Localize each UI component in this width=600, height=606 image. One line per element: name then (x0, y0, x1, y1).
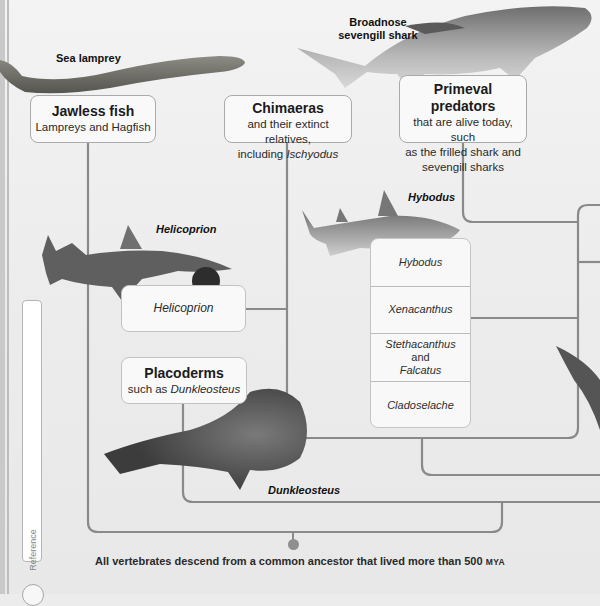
chimaeras-sub-line1: and their extinct relatives, (225, 117, 351, 147)
label-hybodus: Hybodus (408, 191, 455, 204)
primeval-sub-line2: as the frilled shark and (400, 145, 526, 160)
common-ancestor-node (288, 539, 299, 550)
label-broadnose-line2: sevengill shark (330, 29, 426, 42)
placoderms-title: Placoderms (122, 365, 246, 382)
placoderms-sub-italic: Dunkleosteus (171, 383, 241, 395)
footer-caption: All vertebrates descend from a common an… (90, 555, 510, 567)
shark-fin-partial-image (556, 340, 600, 430)
placoderms-subtitle: such as Dunkleosteus (122, 382, 246, 397)
box-jawless-fish: Jawless fish Lampreys and Hagfish (30, 95, 156, 143)
box-helicoprion: Helicoprion (121, 285, 246, 332)
list-item-label: Xenacanthus (388, 303, 452, 316)
label-sea-lamprey: Sea lamprey (56, 52, 121, 65)
primeval-sub-line3: sevengill sharks (400, 160, 526, 175)
box-placoderms: Placoderms such as Dunkleosteus (121, 357, 247, 404)
reference-tab-text: Reference (28, 529, 38, 571)
box-chimaeras: Chimaeras and their extinct relatives, i… (224, 95, 352, 143)
list-item-label-normal: and (411, 351, 429, 363)
label-broadnose-line1: Broadnose (330, 16, 426, 29)
box-primeval-predators: Primeval predators that are alive today,… (399, 75, 527, 143)
list-item-hybodus: Hybodus (371, 239, 470, 287)
jawless-subtitle: Lampreys and Hagfish (31, 120, 155, 135)
reference-tab-circle (22, 584, 44, 606)
list-item-cladoselache: Cladoselache (371, 382, 470, 429)
primeval-sub-line1: that are alive today, such (400, 115, 526, 145)
list-item-stethacanthus-falcatus: Stethacanthus and Falcatus (371, 334, 470, 382)
reference-tab-label: Reference (18, 520, 48, 580)
footer-unit: MYA (486, 557, 505, 567)
list-item-label-italic: Stethacanthus (385, 338, 455, 350)
primeval-title: Primeval predators (400, 81, 526, 115)
chimaeras-sub-line2: including Ischyodus (225, 147, 351, 162)
label-broadnose-sevengill: Broadnose sevengill shark (330, 16, 426, 42)
list-item-xenacanthus: Xenacanthus (371, 287, 470, 335)
list-item-label-line2: Falcatus (400, 364, 442, 376)
label-helicoprion: Helicoprion (156, 223, 217, 236)
jawless-title: Jawless fish (31, 103, 155, 120)
chimaeras-sub-italic: Ischyodus (286, 148, 338, 160)
shark-genera-list: Hybodus Xenacanthus Stethacanthus and Fa… (370, 238, 471, 428)
list-item-label: Cladoselache (387, 399, 454, 412)
chimaeras-sub-prefix: including (238, 148, 287, 160)
label-dunkleosteus: Dunkleosteus (268, 484, 340, 497)
chimaeras-title: Chimaeras (225, 100, 351, 117)
footer-text: All vertebrates descend from a common an… (95, 555, 486, 567)
cladoselache-branch (422, 438, 600, 475)
list-item-label: Hybodus (399, 256, 442, 269)
placoderms-sub-prefix: such as (128, 383, 171, 395)
helicoprion-box-label: Helicoprion (153, 301, 213, 316)
